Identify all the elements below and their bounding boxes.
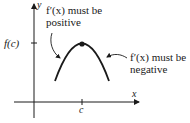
negative-annotation-arrow: [107, 54, 127, 58]
annotation-positive-line1: f′(x) must be: [46, 4, 102, 16]
x-axis-label: x: [132, 88, 136, 100]
function-curve: [55, 44, 109, 82]
annotation-positive-line2: positive: [46, 16, 102, 28]
x-tick-label-c: c: [79, 104, 83, 116]
positive-annotation-arrow: [51, 33, 60, 58]
annotation-negative: f′(x) must be negative: [130, 51, 186, 75]
annotation-positive: f′(x) must be positive: [46, 4, 102, 28]
maximum-point: [79, 41, 84, 46]
y-axis-label: y: [37, 0, 41, 11]
annotation-negative-line2: negative: [130, 63, 186, 75]
y-tick-label-fc: f(c): [4, 37, 19, 49]
annotation-negative-line1: f′(x) must be: [130, 51, 186, 63]
